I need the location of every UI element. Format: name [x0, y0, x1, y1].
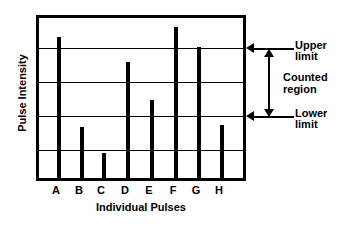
lower-limit-arrow	[246, 111, 294, 122]
lower-limit-arrow-head-icon	[246, 111, 254, 121]
upper-limit-arrow-head-icon	[246, 43, 254, 53]
bar-E	[150, 100, 154, 178]
x-tick-label-e: E	[141, 183, 157, 198]
x-tick-label-a: A	[48, 183, 64, 198]
lower-limit-label-line2: limit	[295, 119, 327, 130]
bar-C	[102, 153, 106, 178]
x-tick-label-f: F	[165, 183, 181, 198]
upper-limit-label-line2: limit	[295, 51, 327, 62]
counted-region-label: Counted region	[283, 71, 328, 95]
gridline-4	[39, 150, 243, 151]
bar-G	[197, 47, 201, 178]
bar-D	[126, 62, 130, 178]
gridline-2	[39, 82, 243, 83]
plot-area	[36, 15, 246, 181]
y-axis-title: Pulse Intensity	[14, 10, 30, 176]
x-tick-label-b: B	[71, 183, 87, 198]
upper-limit-label: Upper limit	[295, 40, 327, 62]
lower-limit-label: Lower limit	[295, 108, 327, 130]
x-axis-title: Individual Pulses	[36, 200, 246, 214]
x-tick-label-d: D	[117, 183, 133, 198]
pulse-intensity-figure: Pulse Intensity A B C D E F G H Individu…	[0, 0, 339, 233]
bar-F	[174, 27, 178, 178]
limit-annotations: Upper limit Counted region Lower limit	[246, 0, 339, 233]
gridline-upper-limit	[39, 48, 243, 49]
counted-region-double-arrow	[268, 56, 270, 110]
x-tick-labels: A B C D E F G H	[36, 183, 246, 198]
bar-A	[57, 37, 61, 178]
x-tick-label-g: G	[188, 183, 204, 198]
gridline-lower-limit	[39, 116, 243, 117]
counted-region-label-line1: Counted	[283, 71, 328, 83]
x-tick-label-c: C	[93, 183, 109, 198]
bar-H	[220, 125, 224, 178]
x-tick-label-h: H	[211, 183, 227, 198]
counted-region-label-line2: region	[283, 83, 328, 95]
counted-region-arrow-head-up-icon	[264, 49, 274, 57]
bar-B	[80, 127, 84, 178]
lower-limit-arrow-line	[252, 116, 294, 118]
